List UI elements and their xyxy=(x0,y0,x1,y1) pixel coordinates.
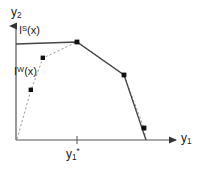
weak-boundary-label: IW(x) xyxy=(14,66,37,77)
y-axis-label: y2 xyxy=(11,6,22,20)
x-axis-label: y1 xyxy=(181,132,192,146)
data-point xyxy=(122,73,127,78)
strong-boundary-label: IS(x) xyxy=(19,25,40,36)
pareto-front-figure: y2 y1 y1* IS(x) IW(x) xyxy=(0,0,200,171)
x-axis-tick-label: y1* xyxy=(66,148,80,162)
data-point xyxy=(75,40,80,45)
strong-boundary-curve xyxy=(16,42,146,140)
data-point xyxy=(29,88,33,92)
weak-boundary-curve xyxy=(17,42,146,140)
data-point xyxy=(41,56,45,60)
data-point xyxy=(142,126,147,131)
